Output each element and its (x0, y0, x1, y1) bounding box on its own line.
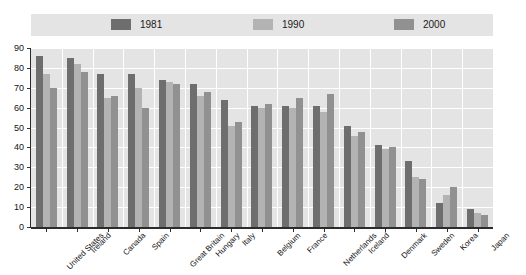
bar-group (123, 48, 154, 227)
y-tick-label-30: 30 (14, 163, 24, 172)
legend-label-1981: 1981 (140, 19, 162, 30)
bar-2000 (204, 92, 211, 227)
x-tick-mark-11 (385, 229, 386, 232)
x-axis-label: Sweden (429, 231, 456, 258)
bar-1981 (344, 126, 351, 227)
bar-2000 (111, 96, 118, 227)
x-axis-label: France (305, 231, 329, 255)
bar-2000 (481, 215, 488, 227)
x-axis-label: Canada (121, 231, 147, 257)
bar-2000 (419, 179, 426, 227)
chart-legend: 198119902000 (31, 14, 493, 36)
bar-1981 (159, 80, 166, 227)
bar-2000 (81, 72, 88, 227)
x-tick-mark-5 (200, 229, 201, 232)
bar-1981 (313, 106, 320, 227)
x-tick-mark-8 (293, 229, 294, 232)
bar-1981 (97, 74, 104, 227)
x-tick-mark-3 (139, 229, 140, 232)
x-axis-label: Belgium (275, 231, 302, 258)
bar-2000 (358, 132, 365, 227)
bar-group (431, 48, 462, 227)
y-tick-label-40: 40 (14, 143, 24, 152)
y-axis: 0102030405060708090 (0, 48, 31, 227)
bar-group (401, 48, 432, 227)
bar-1990 (443, 195, 450, 227)
bar-2000 (327, 94, 334, 227)
plot-area (31, 48, 493, 227)
legend-swatch-1981 (111, 19, 131, 30)
y-tick-label-70: 70 (14, 83, 24, 92)
bar-1981 (190, 84, 197, 227)
bars-layer (31, 48, 493, 227)
bar-group (247, 48, 278, 227)
legend-swatch-1990 (253, 19, 273, 30)
x-axis-label: Denmark (400, 231, 429, 260)
bar-2000 (142, 108, 149, 227)
x-tick-mark-1 (77, 229, 78, 232)
bar-1990 (228, 126, 235, 227)
bar-1990 (474, 213, 481, 227)
x-axis-label: Korea (458, 231, 479, 252)
bar-2000 (173, 84, 180, 227)
legend-label-1990: 1990 (282, 19, 304, 30)
bar-1990 (135, 88, 142, 227)
bar-group (308, 48, 339, 227)
bar-1981 (67, 58, 74, 227)
bar-1981 (375, 145, 382, 227)
x-tick-mark-7 (262, 229, 263, 232)
y-tick-label-90: 90 (14, 44, 24, 53)
bar-1981 (128, 74, 135, 227)
bar-group (31, 48, 62, 227)
bar-2000 (296, 98, 303, 227)
y-tick-label-60: 60 (14, 103, 24, 112)
y-tick-label-10: 10 (14, 203, 24, 212)
bar-1990 (351, 136, 358, 227)
bar-1981 (221, 100, 228, 227)
x-tick-mark-13 (447, 229, 448, 232)
bar-1990 (258, 108, 265, 227)
bar-group (216, 48, 247, 227)
y-axis-line (30, 48, 31, 228)
x-tick-mark-14 (478, 229, 479, 232)
x-tick-mark-2 (108, 229, 109, 232)
bar-1981 (282, 106, 289, 227)
bar-chart: 198119902000 0102030405060708090 United … (0, 0, 526, 275)
bar-1981 (36, 56, 43, 227)
bar-1981 (251, 106, 258, 227)
x-axis-label: Italy (240, 231, 257, 248)
bar-1981 (405, 161, 412, 227)
legend-swatch-2000 (394, 19, 414, 30)
legend-item-1981: 1981 (111, 19, 162, 30)
legend-item-2000: 2000 (394, 19, 445, 30)
x-tick-mark-0 (46, 229, 47, 232)
bar-2000 (389, 147, 396, 227)
bar-2000 (265, 104, 272, 227)
bar-group (93, 48, 124, 227)
bar-1990 (197, 96, 204, 227)
bar-group (62, 48, 93, 227)
legend-label-2000: 2000 (423, 19, 445, 30)
bar-2000 (235, 122, 242, 227)
bar-group (370, 48, 401, 227)
bar-1990 (320, 112, 327, 227)
x-axis-labels: United StatesIrelandCanadaSpainGreat Bri… (31, 231, 493, 275)
bar-group (462, 48, 493, 227)
bar-group (185, 48, 216, 227)
y-tick-label-0: 0 (19, 223, 24, 232)
bar-1990 (166, 82, 173, 227)
bar-1990 (74, 64, 81, 227)
x-tick-mark-12 (416, 229, 417, 232)
bar-2000 (50, 88, 57, 227)
y-tick-label-50: 50 (14, 123, 24, 132)
bar-1981 (467, 209, 474, 227)
bar-group (277, 48, 308, 227)
x-tick-mark-6 (231, 229, 232, 232)
bar-1981 (436, 203, 443, 227)
x-tick-mark-10 (354, 229, 355, 232)
y-tick-label-20: 20 (14, 183, 24, 192)
x-axis-label: Ireland (89, 231, 113, 255)
x-tick-mark-4 (170, 229, 171, 232)
legend-item-1990: 1990 (253, 19, 304, 30)
bar-1990 (382, 149, 389, 227)
